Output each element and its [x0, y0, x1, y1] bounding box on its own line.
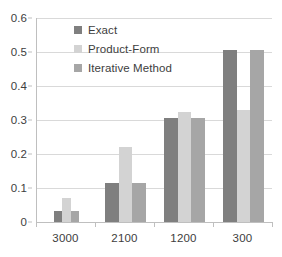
legend-label: Iterative Method — [88, 62, 172, 74]
legend-item[interactable]: Exact — [74, 21, 172, 38]
bar — [191, 118, 205, 222]
x-axis-tick-mark — [95, 222, 96, 227]
legend-item[interactable]: Product-Form — [74, 40, 172, 57]
y-axis-tick-label: 0.2 — [11, 148, 27, 160]
bar — [223, 50, 237, 222]
y-axis-tick-label: 0.6 — [11, 12, 27, 24]
y-axis-tick-label: 0.4 — [11, 80, 27, 92]
legend-label: Exact — [88, 24, 117, 36]
x-axis-category-label: 1200 — [170, 232, 196, 244]
bar — [62, 198, 71, 222]
y-axis-tick-mark — [28, 86, 32, 87]
y-axis-tick-mark — [28, 52, 32, 53]
legend-swatch-icon — [74, 26, 82, 34]
legend: ExactProduct-FormIterative Method — [74, 21, 172, 78]
y-axis-tick-mark — [28, 188, 32, 189]
x-axis-category-label: 2100 — [111, 232, 137, 244]
y-axis: 00.10.20.30.40.50.6 — [0, 0, 36, 257]
gridline — [37, 18, 272, 19]
y-axis-tick-mark — [28, 222, 32, 223]
legend-swatch-icon — [74, 45, 82, 53]
gridline — [37, 86, 272, 87]
bar — [105, 183, 119, 222]
x-axis-tick-mark — [36, 222, 37, 227]
bar — [237, 110, 251, 222]
bar — [54, 211, 63, 222]
legend-swatch-icon — [74, 64, 82, 72]
y-axis-tick-label: 0.1 — [11, 182, 27, 194]
y-axis-tick-mark — [28, 154, 32, 155]
bar — [178, 112, 192, 223]
x-axis-category-label: 3000 — [52, 232, 78, 244]
bar — [164, 118, 178, 222]
bar-chart: 00.10.20.30.40.50.6 ExactProduct-FormIte… — [0, 0, 282, 257]
y-axis-tick-label: 0.3 — [11, 114, 27, 126]
legend-label: Product-Form — [88, 43, 160, 55]
x-axis-category-label: 300 — [233, 232, 253, 244]
y-axis-tick-label: 0 — [21, 216, 28, 228]
y-axis-tick-mark — [28, 120, 32, 121]
bar — [71, 211, 80, 222]
x-axis-tick-mark — [213, 222, 214, 227]
x-axis-tick-mark — [154, 222, 155, 227]
bar — [119, 147, 133, 222]
y-axis-tick-mark — [28, 18, 32, 19]
y-axis-tick-label: 0.5 — [11, 46, 27, 58]
bar — [250, 50, 264, 222]
legend-item[interactable]: Iterative Method — [74, 59, 172, 76]
x-axis-tick-mark — [272, 222, 273, 227]
bar — [132, 183, 146, 222]
